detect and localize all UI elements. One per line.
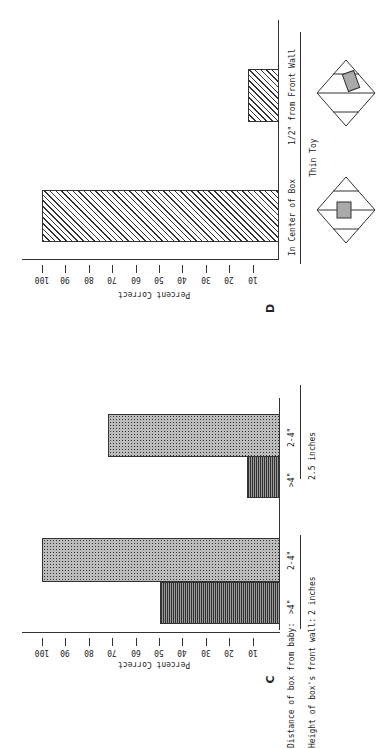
chart-d-xlabel: Thin Toy <box>309 138 318 177</box>
chart-d-tick-label: 20 <box>217 275 241 284</box>
chart-d-ylabel: Percent Correct <box>118 290 190 299</box>
chart-c-tick <box>42 638 43 646</box>
chart-c-bar-2in-2-4 <box>42 538 280 582</box>
chart-d-tick <box>206 265 207 273</box>
chart-d-category-axis <box>300 32 301 264</box>
chart-c-group-line-2 <box>300 535 301 629</box>
chart-d-tick <box>136 265 137 273</box>
chart-c-dist-label-4: 2-4" <box>287 428 296 447</box>
chart-d-tick-label: 40 <box>170 275 194 284</box>
chart-d-tick-label: 80 <box>77 275 101 284</box>
chart-c-tick-label: 70 <box>100 648 124 657</box>
chart-c-bar-2-5in-gt4 <box>247 456 280 498</box>
chart-c-tick <box>159 638 160 646</box>
chart-c-tick-label: 10 <box>241 648 265 657</box>
chart-c-tick-label: 20 <box>217 648 241 657</box>
chart-c-height-label-1: 2 inches <box>308 576 317 615</box>
chart-c-tick <box>136 638 137 646</box>
chart-c-bar-2in-gt4 <box>160 582 280 624</box>
chart-c-letter: C <box>264 675 277 683</box>
chart-d-tick <box>159 265 160 273</box>
chart-c-height-label-2: 2.5 inches <box>308 432 317 480</box>
chart-c-tick <box>206 638 207 646</box>
chart-d-bar-front-wall <box>248 69 279 122</box>
chart-c-dist-label-1: >4" <box>287 600 296 614</box>
chart-c-tick <box>89 638 90 646</box>
chart-d-tick-label: 10 <box>241 275 265 284</box>
chart-d-tick-label: 60 <box>124 275 148 284</box>
chart-c-tick-label: 50 <box>147 648 171 657</box>
chart-c-tick-label: 30 <box>194 648 218 657</box>
chart-c-value-axis <box>22 632 280 633</box>
chart-d-tick <box>65 265 66 273</box>
chart-c-tick-label: 90 <box>53 648 77 657</box>
chart-c-tick <box>182 638 183 646</box>
chart-d-tick <box>89 265 90 273</box>
chart-c-dist-label-3: >4" <box>287 473 296 487</box>
chart-d-tick-label: 90 <box>53 275 77 284</box>
chart-d-letter: D <box>264 304 277 313</box>
chart-c-tick-label: 100 <box>30 648 54 657</box>
chart-c-tick <box>253 638 254 646</box>
chart-d-tick-label: 100 <box>30 275 54 284</box>
chart-c-tick-label: 80 <box>77 648 101 657</box>
chart-d-tick-label: 50 <box>147 275 171 284</box>
chart-d-tick-label: 30 <box>194 275 218 284</box>
chart-c-tick <box>229 638 230 646</box>
chart-c-dist-label-2: 2-4" <box>287 551 296 570</box>
chart-c-row1-label: Distance of box from baby: <box>287 623 296 748</box>
chart-c-tick-label: 60 <box>124 648 148 657</box>
chart-c-row2-label: Height of box's front wall: <box>308 618 317 748</box>
box-toy-front-wall-illustration <box>315 58 377 128</box>
chart-c-tick-label: 40 <box>170 648 194 657</box>
chart-d-tick <box>42 265 43 273</box>
chart-d-category-2: 1/2" from Front Wall <box>288 49 297 145</box>
chart-d-bar-center <box>42 190 279 242</box>
chart-d-tick <box>229 265 230 273</box>
chart-c-group-line-2-5 <box>300 385 301 479</box>
chart-d-tick <box>112 265 113 273</box>
chart-d-category-1: In Center of Box <box>288 179 297 256</box>
chart-d-tick <box>182 265 183 273</box>
chart-d-tick <box>253 265 254 273</box>
chart-d-value-axis <box>22 259 279 260</box>
chart-c-ylabel: Percent Correct <box>118 660 190 669</box>
chart-c-bar-2-5in-2-4 <box>108 414 280 457</box>
box-toy-center-illustration <box>315 175 377 245</box>
chart-c-tick <box>112 638 113 646</box>
chart-d-tick-label: 70 <box>100 275 124 284</box>
chart-c-tick <box>65 638 66 646</box>
